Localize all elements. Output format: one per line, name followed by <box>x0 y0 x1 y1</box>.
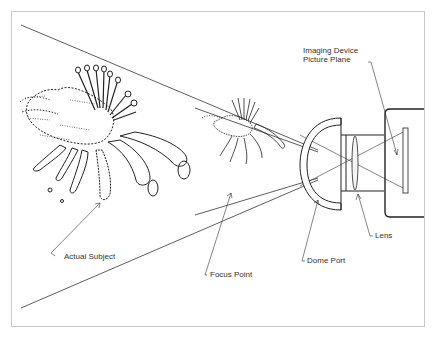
imaging-device-label-line2: Picture Plane <box>303 55 358 64</box>
picture-plane <box>403 128 408 193</box>
lens <box>352 136 358 190</box>
dome-port <box>300 118 341 210</box>
actual-subject-label: Actual Subject <box>64 252 115 261</box>
lens-label: Lens <box>375 231 392 240</box>
field-of-view-rays <box>21 25 318 308</box>
lens-housing <box>341 135 384 191</box>
imaging-device-label: Imaging Device Picture Plane <box>303 46 358 64</box>
dome-port-diagram <box>0 0 437 338</box>
imaging-device-label-line1: Imaging Device <box>303 46 358 55</box>
dome-port-label: Dome Port <box>307 256 345 265</box>
focus-point-label: Focus Point <box>210 270 252 279</box>
